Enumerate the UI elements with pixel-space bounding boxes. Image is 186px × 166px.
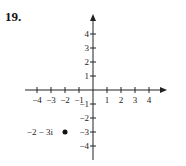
y-axis-arrow-icon xyxy=(90,14,96,21)
x-tick-label: 2 xyxy=(119,95,124,105)
x-axis-arrow-icon xyxy=(160,87,167,93)
x-tick-label: 1 xyxy=(105,95,110,105)
y-tick-label: 4 xyxy=(85,29,90,39)
y-tick-label: 2 xyxy=(85,57,90,67)
x-tick-label: −3 xyxy=(46,95,56,105)
y-tick-label: −4 xyxy=(79,141,89,151)
x-tick-label: 3 xyxy=(133,95,138,105)
y-tick-label: 3 xyxy=(85,43,90,53)
y-tick-label: 1 xyxy=(85,71,90,81)
data-point xyxy=(63,130,68,135)
y-tick-label: −3 xyxy=(79,127,89,137)
point-label: −2 − 3i xyxy=(27,127,54,137)
y-tick-label: −1 xyxy=(79,99,89,109)
y-tick-label: −2 xyxy=(79,113,89,123)
x-tick-label: 4 xyxy=(147,95,152,105)
x-tick-label: −2 xyxy=(60,95,70,105)
data-points: −2 − 3i xyxy=(27,127,68,137)
complex-plane-plot: −4−3−2−11234 4321−1−2−3−4 −2 − 3i xyxy=(0,0,186,166)
x-tick-label: −4 xyxy=(32,95,42,105)
